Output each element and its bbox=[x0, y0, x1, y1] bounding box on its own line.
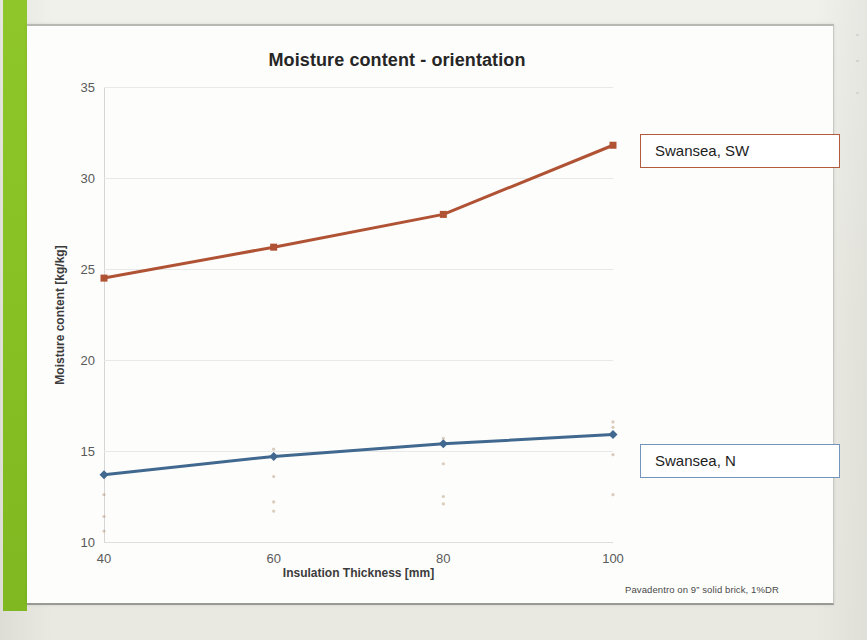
chart-title: Moisture content - orientation bbox=[27, 50, 767, 71]
y-tick-label: 10 bbox=[81, 535, 95, 550]
data-point-marker bbox=[439, 439, 448, 448]
data-point-marker bbox=[610, 142, 617, 149]
y-tick-label: 30 bbox=[81, 171, 95, 186]
scatter-speckle bbox=[272, 448, 275, 451]
legend-callout-swansea-n[interactable]: Swansea, N bbox=[640, 444, 840, 478]
y-axis-title-label: Moisture content [kg/kg] bbox=[53, 245, 67, 384]
y-tick-label: 20 bbox=[81, 353, 95, 368]
scan-artifact bbox=[840, 34, 860, 124]
green-accent-bar bbox=[3, 0, 27, 611]
y-axis-title: Moisture content [kg/kg] bbox=[51, 87, 69, 542]
x-tick-label: 60 bbox=[266, 551, 280, 566]
scatter-speckle bbox=[272, 500, 275, 503]
scatter-speckle bbox=[442, 495, 445, 498]
series-1 bbox=[101, 142, 617, 282]
data-point-marker bbox=[609, 430, 618, 439]
data-point-marker bbox=[270, 244, 277, 251]
scatter-speckle bbox=[272, 509, 275, 512]
y-tick-label: 35 bbox=[81, 80, 95, 95]
scatter-speckle bbox=[102, 493, 105, 496]
series-layer bbox=[104, 87, 613, 542]
scatter-speckle bbox=[442, 462, 445, 465]
y-tick-label: 15 bbox=[81, 444, 95, 459]
x-tick-label: 100 bbox=[602, 551, 624, 566]
series-line bbox=[104, 435, 613, 475]
chart-footnote: Pavadentro on 9” solid brick, 1%DR bbox=[625, 584, 855, 595]
y-tick-label: 25 bbox=[81, 262, 95, 277]
scatter-speckle bbox=[102, 529, 105, 532]
series-line bbox=[104, 145, 613, 278]
legend-label-swansea-sw: Swansea, SW bbox=[655, 142, 749, 159]
series-2 bbox=[100, 430, 618, 479]
gridline bbox=[104, 542, 613, 543]
scatter-speckle bbox=[611, 493, 614, 496]
x-tick-label: 40 bbox=[97, 551, 111, 566]
data-point-marker bbox=[269, 452, 278, 461]
scatter-speckle bbox=[611, 420, 614, 423]
legend-label-swansea-n: Swansea, N bbox=[655, 452, 736, 469]
x-tick-label: 80 bbox=[436, 551, 450, 566]
scatter-speckle bbox=[611, 453, 614, 456]
scatter-speckle bbox=[102, 515, 105, 518]
scatter-speckle bbox=[272, 475, 275, 478]
x-axis-title: Insulation Thickness [mm] bbox=[104, 566, 613, 580]
scatter-speckle bbox=[611, 426, 614, 429]
scatter-speckle bbox=[442, 502, 445, 505]
data-point-marker bbox=[101, 275, 108, 282]
slide-card: Moisture content - orientation Moisture … bbox=[27, 24, 834, 605]
data-point-marker bbox=[100, 470, 109, 479]
legend-callout-swansea-sw[interactable]: Swansea, SW bbox=[640, 134, 840, 168]
data-point-marker bbox=[440, 211, 447, 218]
plot-area: 353025201510 406080100 bbox=[104, 87, 613, 542]
